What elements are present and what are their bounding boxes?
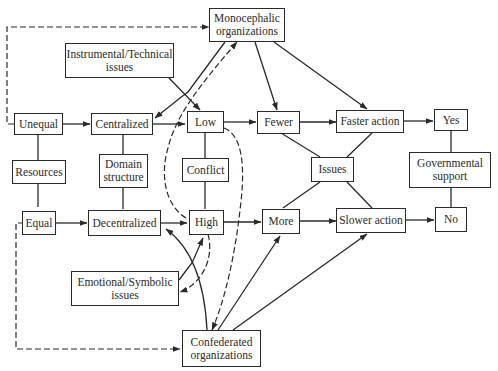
node-equal: Equal (22, 211, 56, 235)
node-centralized: Centralized (91, 113, 153, 135)
arrow-monocephalic-fewer (255, 42, 277, 110)
node-instrumental: Instrumental/Technical issues (65, 43, 174, 78)
node-faster-action: Faster action (336, 110, 404, 133)
node-resources: Resources (12, 160, 66, 184)
node-issues: Issues (311, 157, 354, 182)
arrow-monocephalic-faster (274, 42, 367, 109)
node-governmental-support: Governmental support (409, 152, 491, 188)
line-faster-issues (347, 133, 372, 157)
node-high: High (189, 210, 224, 235)
line-fewer-issues (281, 133, 320, 157)
diagram-canvas: Monocephalic organizations Instrumental/… (0, 0, 498, 371)
node-slower-action: Slower action (336, 208, 406, 233)
node-decentralized: Decentralized (88, 210, 161, 236)
node-conflict: Conflict (182, 158, 229, 182)
arrow-confederated-slower (233, 234, 367, 330)
line-issues-slower (347, 182, 372, 208)
node-monocephalic: Monocephalic organizations (209, 8, 285, 42)
node-unequal: Unequal (14, 113, 63, 135)
node-fewer: Fewer (257, 111, 300, 134)
node-yes: Yes (434, 109, 468, 131)
line-issues-more (283, 182, 320, 208)
dashed-arrow-high-emotional (180, 234, 210, 292)
node-more: More (262, 209, 300, 234)
node-emotional-symbolic: Emotional/Symbolic issues (71, 271, 179, 306)
node-low: Low (187, 111, 224, 133)
node-no: No (435, 207, 467, 232)
node-domain-structure: Domain structure (99, 154, 148, 188)
node-confederated: Confederated organizations (182, 330, 261, 367)
